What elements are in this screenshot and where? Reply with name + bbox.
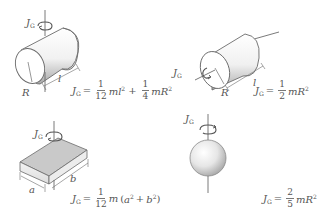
equals-sign: = — [83, 193, 91, 204]
formula-rectangular-plate: JG = 112 m ( a2 + b2 ) — [72, 188, 160, 209]
equals-sign: = — [266, 85, 274, 96]
axis-label-jg: JG — [26, 18, 35, 29]
formula-term: ml2 — [109, 85, 126, 97]
formula-term: mR2 — [288, 85, 309, 97]
length-label: l — [58, 74, 61, 84]
formula-term: a2 — [124, 193, 134, 205]
panel-cylinder-longitudinal: JG R l JG = 12 mR2 — [165, 0, 325, 110]
formula-lhs: JG — [263, 193, 272, 205]
formula-term: mR2 — [296, 193, 317, 205]
fraction: 25 — [286, 188, 294, 209]
sphere-body — [190, 140, 226, 176]
formula-term: b2 — [146, 193, 156, 205]
fraction: 112 — [95, 188, 106, 209]
axis-label-jg: JG — [34, 129, 43, 140]
radius-label: R — [22, 88, 30, 98]
equals-sign: = — [83, 85, 91, 96]
paren-close: ) — [156, 193, 160, 204]
plus-sign: + — [136, 193, 144, 204]
formula-lhs: JG — [255, 85, 264, 97]
fraction: 112 — [95, 80, 106, 101]
axis-label-jg: JG — [173, 68, 182, 79]
fraction: 12 — [278, 80, 286, 101]
dimension-a-label: a — [29, 185, 35, 195]
panel-cylinder-transverse: JG R l JG = 112 ml2 + 14 mR2 — [0, 0, 165, 110]
formula-cylinder-longitudinal: JG = 12 mR2 — [255, 80, 309, 101]
equals-sign: = — [274, 193, 282, 204]
formula-lhs: JG — [72, 85, 81, 97]
radius-label: R — [221, 88, 229, 98]
formula-cylinder-transverse: JG = 112 ml2 + 14 mR2 — [72, 80, 172, 101]
formula-lhs: JG — [72, 193, 81, 205]
plus-sign: + — [128, 85, 136, 96]
panel-rectangular-plate: JG a b JG = 112 m ( a2 + b2 ) — [0, 110, 165, 218]
fraction: 14 — [142, 80, 150, 101]
dimension-b-label: b — [70, 174, 76, 184]
formula-solid-sphere: JG = 25 mR2 — [263, 188, 317, 209]
formula-term: m — [109, 193, 118, 204]
axis-label-jg: JG — [185, 114, 194, 125]
panel-solid-sphere: JG JG = 25 mR2 — [165, 110, 325, 218]
